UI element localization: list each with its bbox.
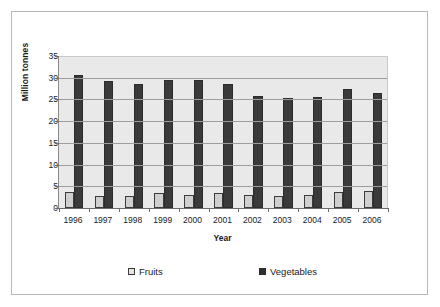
- gridline: [59, 165, 388, 166]
- x-tickmark: [119, 208, 120, 212]
- bar-fruits-1998: [125, 196, 134, 208]
- x-tickmark: [388, 208, 389, 212]
- chart-legend: Fruits Vegetables: [58, 263, 387, 279]
- bar-fruits-1996: [65, 192, 74, 208]
- x-tickmark: [298, 208, 299, 212]
- x-tickmark: [59, 208, 60, 212]
- bar-vegetables-2003: [283, 98, 292, 208]
- bar-vegetables-2002: [253, 96, 262, 208]
- bar-group: [65, 56, 84, 208]
- bar-fruits-2004: [304, 195, 313, 208]
- gridline: [59, 56, 388, 57]
- gridline: [59, 121, 388, 122]
- bar-group: [274, 56, 293, 208]
- gridline: [59, 186, 388, 187]
- bar-fruits-2002: [244, 195, 253, 208]
- bar-fruits-2006: [364, 191, 373, 208]
- bar-group: [95, 56, 114, 208]
- gridline: [59, 143, 388, 144]
- bar-vegetables-2004: [313, 97, 322, 208]
- y-tickmark: [55, 121, 59, 122]
- bar-vegetables-2001: [223, 84, 232, 208]
- bar-vegetables-2006: [373, 93, 382, 208]
- bar-group: [334, 56, 353, 208]
- y-tickmark: [55, 56, 59, 57]
- bar-fruits-1997: [95, 196, 104, 208]
- fruits-swatch-icon: [128, 268, 135, 275]
- y-tickmark: [55, 78, 59, 79]
- plot-area: [58, 56, 388, 209]
- legend-entry-vegetables: Vegetables: [259, 263, 317, 279]
- bar-fruits-2003: [274, 196, 283, 208]
- y-axis-title: Million tonnes: [18, 26, 32, 118]
- x-axis-title: Year: [58, 233, 387, 244]
- vegetables-swatch-icon: [259, 268, 266, 275]
- x-tick-label: 2006: [352, 214, 392, 226]
- legend-label-fruits: Fruits: [139, 266, 163, 277]
- y-tickmark: [55, 99, 59, 100]
- bar-chart-figure: Million tonnes 05101520253035 1996199719…: [12, 12, 427, 294]
- chart-card: Million tonnes 05101520253035 1996199719…: [11, 11, 428, 295]
- x-tickmark: [358, 208, 359, 212]
- bars-layer: [59, 56, 388, 208]
- legend-entry-fruits: Fruits: [128, 263, 163, 279]
- y-tickmark: [55, 186, 59, 187]
- bar-vegetables-1998: [134, 84, 143, 208]
- x-tickmark: [89, 208, 90, 212]
- bar-vegetables-1996: [74, 75, 83, 208]
- x-tickmark: [209, 208, 210, 212]
- gridline: [59, 78, 388, 79]
- bar-fruits-2001: [214, 193, 223, 208]
- bar-group: [154, 56, 173, 208]
- bar-group: [304, 56, 323, 208]
- gridline: [59, 99, 388, 100]
- x-axis-tick-labels: 1996199719981999200020012002200320042005…: [58, 214, 387, 228]
- x-tickmark: [149, 208, 150, 212]
- x-tickmark: [179, 208, 180, 212]
- bar-vegetables-2005: [343, 89, 352, 208]
- x-tickmark: [268, 208, 269, 212]
- y-axis-tick-labels: 05101520253035: [34, 50, 58, 213]
- bar-fruits-2005: [334, 192, 343, 208]
- y-tickmark: [55, 143, 59, 144]
- bar-group: [184, 56, 203, 208]
- y-tickmark: [55, 165, 59, 166]
- bar-group: [364, 56, 383, 208]
- bar-fruits-2000: [184, 195, 193, 208]
- x-tickmark: [328, 208, 329, 212]
- bar-group: [214, 56, 233, 208]
- x-tickmark: [238, 208, 239, 212]
- bar-fruits-1999: [154, 193, 163, 208]
- legend-label-vegetables: Vegetables: [270, 266, 317, 277]
- bar-group: [125, 56, 144, 208]
- bar-group: [244, 56, 263, 208]
